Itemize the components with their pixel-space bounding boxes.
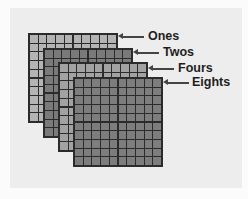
grid-cell [92,123,100,131]
grid-cell [104,64,112,72]
grid-cell [153,88,161,96]
grid-cell [110,88,118,96]
grid-cell [153,131,161,139]
grid-cell [136,79,144,87]
grid-cell [45,111,53,119]
grid-cell [110,131,118,139]
grid-cell [119,131,127,139]
grid-cell [92,88,100,96]
grid-cell [101,131,109,139]
grid-cell [127,79,135,87]
grid-cell [101,149,109,157]
grid-cell [30,35,38,43]
grid-cell [60,81,68,89]
grid-cell [153,79,161,87]
label-fours: Fours [178,61,213,75]
grid-cell [153,140,161,148]
grid-cell [45,94,53,102]
arrow-left-icon [167,82,189,84]
grid-eights [73,77,163,167]
grid-cell [119,123,127,131]
grid-cell [75,96,83,104]
grid-cell [119,79,127,87]
grid-cell [127,96,135,104]
grid-cell [84,149,92,157]
grid-cell [145,79,153,87]
grid-cell [30,70,38,78]
grid-cell [60,64,68,72]
grid-cell [136,88,144,96]
grid-cell [106,50,114,58]
grid-cell [127,105,135,113]
grid-cell [97,50,105,58]
grid-cell [110,114,118,122]
grid-cell [136,105,144,113]
grid-cell [92,79,100,87]
grid-cell [84,140,92,148]
grid-cell [45,120,53,128]
grid-cell [89,50,97,58]
grid-cell [92,140,100,148]
grid-cell [110,140,118,148]
grid-cell [127,149,135,157]
grid-cell [75,79,83,87]
grid-cell [153,96,161,104]
grid-cell [101,105,109,113]
grid-cell [45,59,53,67]
grid-cell [119,114,127,122]
grid-cell [74,35,82,43]
grid-cell [136,123,144,131]
grid-cell [115,50,123,58]
grid-cell [145,131,153,139]
grid-cell [62,50,70,58]
grid-cell [30,79,38,87]
grid-cell [60,142,68,150]
grid-cell [84,157,92,165]
grid-cell [71,50,79,58]
grid-cell [145,157,153,165]
arrow-left-icon [137,52,159,54]
grid-cell [136,140,144,148]
grid-cell [92,114,100,122]
grid-cell [119,149,127,157]
label-ones: Ones [148,29,179,43]
grid-cell [119,105,127,113]
grid-cell [84,131,92,139]
grid-cell [145,149,153,157]
grid-cell [92,149,100,157]
grid-cell [136,149,144,157]
grid-cell [75,140,83,148]
grid-cell [110,149,118,157]
grid-cell [45,50,53,58]
grid-cell [145,105,153,113]
grid-cell [60,90,68,98]
grid-cell [153,105,161,113]
grid-cell [153,149,161,157]
grid-cell [82,35,90,43]
grid-cell [127,88,135,96]
grid-cell [84,123,92,131]
grid-cell [30,105,38,113]
grid-cell [112,64,120,72]
grid-cell [127,131,135,139]
grid-cell [108,35,116,43]
grid-cell [119,157,127,165]
grid-cell [75,157,83,165]
grid-cell [56,35,64,43]
grid-cell [92,131,100,139]
label-eights: Eights [192,75,230,89]
grid-cell [153,123,161,131]
grid-cell [45,67,53,75]
grid-cell [145,88,153,96]
grid-cell [110,79,118,87]
grid-cell [86,64,94,72]
grid-cell [110,96,118,104]
grid-cell [69,64,77,72]
grid-cell [130,64,138,72]
grid-cell [136,114,144,122]
grid-cell [127,123,135,131]
grid-cell [30,44,38,52]
grid-cell [121,64,129,72]
grid-cell [30,52,38,60]
grid-cell [95,64,103,72]
